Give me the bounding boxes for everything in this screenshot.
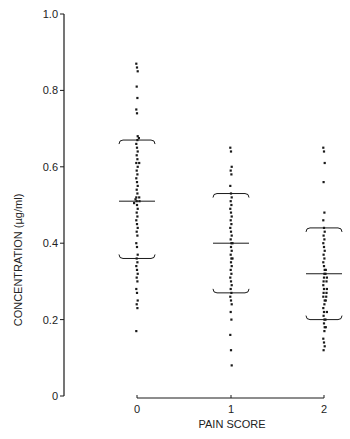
- data-point: [323, 303, 325, 305]
- data-point: [323, 349, 325, 351]
- data-point: [136, 307, 138, 309]
- data-point: [231, 215, 233, 217]
- data-point: [137, 70, 139, 72]
- data-point: [137, 208, 139, 210]
- data-point: [135, 63, 137, 65]
- data-point: [230, 200, 232, 202]
- data-point: [136, 192, 138, 194]
- data-point: [136, 269, 138, 271]
- data-point: [231, 364, 233, 366]
- y-tick-label: 0: [52, 390, 58, 402]
- data-point: [231, 166, 233, 168]
- data-point: [230, 273, 232, 275]
- data-point: [322, 284, 324, 286]
- data-point: [322, 296, 324, 298]
- data-point: [137, 135, 139, 137]
- data-point: [325, 280, 327, 282]
- data-point: [136, 66, 138, 68]
- data-point: [135, 177, 137, 179]
- data-point: [323, 150, 325, 152]
- data-point: [136, 154, 138, 156]
- data-point: [322, 338, 324, 340]
- data-point: [136, 112, 138, 114]
- group-2: [306, 147, 342, 352]
- data-point: [231, 235, 233, 237]
- data-point: [323, 280, 325, 282]
- data-point: [323, 235, 325, 237]
- data-point: [136, 212, 138, 214]
- data-point: [230, 299, 232, 301]
- y-tick-label: 0.8: [43, 84, 58, 96]
- data-point: [230, 170, 232, 172]
- data-point: [323, 330, 325, 332]
- data-point: [136, 86, 138, 88]
- data-point: [229, 147, 231, 149]
- data-point: [136, 181, 138, 183]
- data-point: [323, 246, 325, 248]
- data-point: [326, 288, 328, 290]
- data-point: [326, 277, 328, 279]
- x-tick-label: 2: [321, 403, 327, 415]
- data-point: [323, 265, 325, 267]
- data-point: [230, 254, 232, 256]
- data-point: [326, 311, 328, 313]
- data-point: [322, 219, 324, 221]
- data-point: [324, 250, 326, 252]
- data-point: [135, 196, 137, 198]
- y-tick-label: 0.6: [43, 161, 58, 173]
- data-point: [135, 330, 137, 332]
- y-tick-label: 0.4: [43, 237, 58, 249]
- y-tick-label: 1.0: [43, 8, 58, 20]
- data-point: [230, 150, 232, 152]
- data-point: [323, 238, 325, 240]
- data-point: [138, 196, 140, 198]
- data-point: [135, 108, 137, 110]
- data-point: [137, 185, 139, 187]
- data-point: [136, 246, 138, 248]
- data-point: [230, 204, 232, 206]
- data-point: [230, 246, 232, 248]
- data-point: [137, 150, 139, 152]
- y-axis: 00.20.40.60.81.0: [43, 8, 64, 402]
- data-point: [323, 341, 325, 343]
- data-point: [322, 307, 324, 309]
- data-point: [325, 292, 327, 294]
- data-point: [135, 265, 137, 267]
- group-0: [119, 63, 155, 333]
- data-point: [135, 143, 137, 145]
- data-point: [136, 235, 138, 237]
- data-point: [323, 288, 325, 290]
- group-1: [213, 147, 249, 367]
- data-point: [229, 185, 231, 187]
- data-point: [135, 219, 137, 221]
- data-point: [230, 311, 232, 313]
- data-point: [323, 212, 325, 214]
- data-point: [136, 215, 138, 217]
- data-point: [324, 162, 326, 164]
- data-point: [230, 261, 232, 263]
- data-point: [231, 257, 233, 259]
- data-point: [230, 223, 232, 225]
- data-point: [322, 242, 324, 244]
- y-axis-label: CONCENTRATION (µg/ml): [12, 194, 24, 327]
- data-point: [230, 173, 232, 175]
- data-point: [136, 158, 138, 160]
- data-point: [323, 315, 325, 317]
- data-point: [322, 261, 324, 263]
- data-point: [134, 198, 136, 200]
- data-point: [138, 162, 140, 164]
- x-tick-label: 0: [134, 403, 140, 415]
- y-tick-label: 0.2: [43, 314, 58, 326]
- data-point: [136, 170, 138, 172]
- data-point: [136, 303, 138, 305]
- data-point: [137, 227, 139, 229]
- data-point: [323, 311, 325, 313]
- data-point: [325, 299, 327, 301]
- data-point: [229, 227, 231, 229]
- data-point: [231, 250, 233, 252]
- data-point: [135, 288, 137, 290]
- data-point: [230, 288, 232, 290]
- data-point: [325, 269, 327, 271]
- data-groups: [119, 63, 342, 367]
- x-tick-label: 1: [228, 403, 234, 415]
